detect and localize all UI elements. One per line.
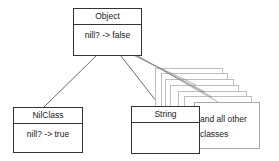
other-classes-label-line1: and all other (200, 112, 247, 127)
other-classes-label: and all other classes (200, 112, 247, 142)
class-method-string (132, 123, 199, 126)
other-classes-label-line2: classes (200, 127, 247, 142)
other-classes-box: and all other classes (194, 102, 260, 149)
class-name-nilclass: NilClass (14, 108, 82, 124)
class-name-object: Object (74, 9, 141, 25)
class-method-object: nill? -> false (74, 25, 141, 43)
class-box-string: String (131, 106, 200, 154)
class-method-nilclass: nill? -> true (14, 124, 82, 142)
class-box-object: Object nill? -> false (73, 8, 142, 56)
class-box-nilclass: NilClass nill? -> true (13, 107, 83, 153)
class-name-string: String (132, 107, 199, 123)
